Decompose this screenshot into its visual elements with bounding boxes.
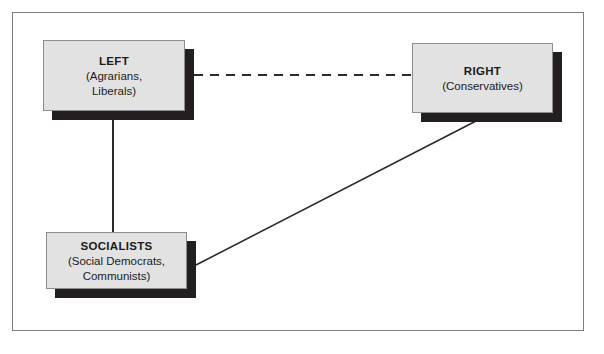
node-socialists-subtitle-line-2: Communists) bbox=[83, 269, 151, 284]
node-socialists-subtitle-line-1: (Social Democrats, bbox=[68, 254, 165, 269]
node-socialists-title: SOCIALISTS bbox=[80, 238, 152, 254]
connector-socialists-right bbox=[196, 120, 478, 265]
node-left[interactable]: LEFT (Agrarians, Liberals) bbox=[43, 40, 185, 111]
node-right[interactable]: RIGHT (Conservatives) bbox=[412, 43, 553, 113]
node-left-subtitle-line-1: (Agrarians, bbox=[86, 69, 142, 84]
node-left-title: LEFT bbox=[99, 53, 129, 69]
node-socialists[interactable]: SOCIALISTS (Social Democrats, Communists… bbox=[46, 232, 187, 289]
node-right-subtitle-line-1: (Conservatives) bbox=[442, 79, 523, 94]
node-right-title: RIGHT bbox=[464, 63, 501, 79]
node-left-subtitle-line-2: Liberals) bbox=[92, 84, 136, 99]
diagram-canvas: LEFT (Agrarians, Liberals) RIGHT (Conser… bbox=[0, 0, 604, 354]
